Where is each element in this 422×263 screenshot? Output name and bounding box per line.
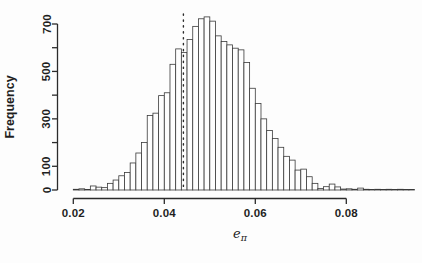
histogram-bar [352, 189, 358, 190]
histogram-bar [119, 176, 125, 190]
histogram-bar [113, 180, 119, 190]
histogram-bar [153, 113, 159, 190]
y-tick-label: 100 [41, 156, 53, 176]
y-tick-label: 700 [41, 14, 53, 34]
histogram-bar [312, 183, 318, 190]
histogram-bar [204, 17, 210, 190]
x-tick-label: 0.02 [62, 207, 85, 219]
histogram-bar [278, 147, 284, 190]
histogram-bar [261, 119, 267, 190]
histogram-bar [198, 19, 204, 190]
histogram-bar [272, 139, 278, 190]
histogram-bar [210, 21, 216, 190]
histogram-bar [170, 64, 176, 190]
histogram-bar [221, 42, 227, 190]
histogram-bar [176, 49, 182, 190]
histogram-bar [267, 130, 273, 190]
bars-layer [73, 17, 414, 190]
x-tick-label: 0.08 [335, 207, 359, 219]
histogram-chart: 01003005007000.020.040.060.08 Frequency … [0, 0, 422, 263]
histogram-bar [324, 187, 330, 190]
histogram-bar [124, 172, 130, 190]
histogram-bar [255, 103, 261, 190]
y-tick-label: 300 [41, 109, 53, 129]
histogram-bar [147, 116, 153, 190]
histogram-bar [233, 48, 239, 190]
histogram-bar [335, 187, 341, 190]
histogram-bar [250, 88, 256, 190]
histogram-bar [73, 189, 79, 190]
histogram-bar [363, 189, 369, 190]
histogram-bar [193, 26, 199, 190]
histogram-bar [164, 93, 170, 190]
histogram-bar [215, 36, 221, 190]
histogram-bar [181, 52, 187, 190]
histogram-bar [289, 160, 295, 190]
x-tick-label: 0.06 [244, 207, 267, 219]
histogram-bar [187, 39, 193, 190]
histogram-bar [102, 188, 108, 190]
histogram-bar [130, 163, 136, 190]
histogram-bar [96, 187, 102, 190]
histogram-bar [79, 189, 85, 190]
y-tick-label: 0 [41, 187, 53, 194]
histogram-bar [227, 45, 233, 190]
x-axis-title: eπ [233, 226, 248, 243]
histogram-bar [90, 186, 96, 190]
histogram-bar [341, 189, 347, 190]
histogram-figure: 01003005007000.020.040.060.08 Frequency … [0, 0, 422, 263]
histogram-bar [136, 153, 142, 190]
histogram-bar [358, 188, 364, 190]
x-axis-title-subscript: π [240, 232, 248, 243]
histogram-bar [238, 50, 244, 190]
histogram-bar [375, 189, 381, 190]
histogram-bar [346, 189, 352, 190]
histogram-bar [142, 143, 148, 190]
histogram-bar [295, 170, 301, 190]
histogram-bar [159, 96, 165, 190]
y-axis-title: Frequency [3, 75, 17, 138]
histogram-bar [284, 156, 290, 190]
histogram-bar [306, 177, 312, 190]
histogram-bar [397, 189, 403, 190]
histogram-bar [107, 183, 113, 190]
histogram-bar [386, 189, 392, 190]
histogram-bar [244, 62, 250, 190]
y-tick-label: 500 [41, 62, 53, 82]
x-tick-label: 0.04 [153, 207, 177, 219]
histogram-bar [318, 189, 324, 190]
histogram-bar [329, 184, 335, 190]
histogram-bar [301, 169, 307, 190]
